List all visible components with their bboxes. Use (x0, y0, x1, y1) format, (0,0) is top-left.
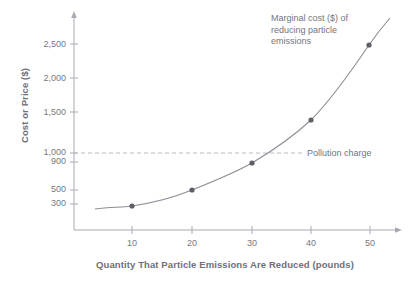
curve-annotation: Marginal cost ($) of reducing particle e… (271, 13, 389, 48)
pollution-charge-annotation: Pollution charge (307, 148, 372, 158)
y-tick-label-300: 300 (26, 198, 66, 208)
curve-annotation-line-2: reducing particle (271, 25, 389, 37)
curve-annotation-line-1: Marginal cost ($) of (271, 13, 389, 25)
data-point-10 (129, 203, 134, 208)
data-point-40 (308, 117, 313, 122)
x-tick-label-40: 40 (296, 238, 326, 248)
y-tick-label-2000: 2,000 (26, 73, 66, 83)
curve-annotation-line-3: emissions (271, 36, 389, 48)
x-tick-label-20: 20 (177, 238, 207, 248)
y-tick-label-500: 500 (26, 184, 66, 194)
y-tick-label-1500: 1,500 (26, 107, 66, 117)
data-point-markers (129, 42, 371, 208)
y-tick-label-2500: 2,500 (26, 39, 66, 49)
x-tick-label-30: 30 (237, 238, 267, 248)
y-tick-label-900: 900 (26, 156, 66, 166)
x-tick-label-50: 50 (355, 238, 385, 248)
data-point-30 (249, 160, 254, 165)
x-tick-label-10: 10 (117, 238, 147, 248)
y-axis-arrow-icon (71, 11, 77, 18)
x-axis-title: Quantity That Particle Emissions Are Red… (55, 259, 395, 270)
data-point-20 (189, 187, 194, 192)
x-axis-arrow-icon (395, 227, 402, 233)
chart-figure: Cost or Price ($) Quantity That Particle… (0, 0, 410, 284)
